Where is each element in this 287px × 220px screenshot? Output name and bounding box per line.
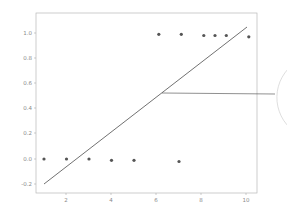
data-point	[42, 157, 45, 160]
y-tick-label: 0.8	[23, 55, 32, 61]
data-point	[213, 34, 216, 37]
data-points	[42, 33, 250, 163]
x-tick-label: 4	[109, 197, 113, 203]
data-point	[65, 157, 68, 160]
y-tick-label: 0.2	[23, 130, 32, 136]
plot-frame	[36, 13, 257, 193]
chart-canvas: 1.0 0.8 0.6 0.4 0.2 0.0 -0.2 2 4 6 8 10	[0, 0, 287, 220]
y-axis: 1.0 0.8 0.6 0.4 0.2 0.0 -0.2	[21, 30, 36, 187]
fit-line	[44, 27, 247, 184]
x-tick-label: 10	[243, 197, 250, 203]
data-point	[110, 159, 113, 162]
data-point	[225, 34, 228, 37]
x-axis: 2 4 6 8 10	[64, 193, 250, 203]
data-point	[177, 160, 180, 163]
y-tick-label: -0.2	[21, 181, 32, 187]
data-point	[87, 157, 90, 160]
y-tick-label: 0.4	[23, 105, 32, 111]
y-tick-label: 0.0	[23, 156, 32, 162]
x-tick-label: 8	[199, 197, 203, 203]
data-point	[180, 33, 183, 36]
data-point	[202, 34, 205, 37]
y-tick-label: 1.0	[23, 30, 32, 36]
y-tick-label: 0.6	[23, 80, 32, 86]
data-point	[247, 35, 250, 38]
callout-line	[162, 93, 275, 94]
x-tick-label: 6	[154, 197, 158, 203]
x-tick-label: 2	[64, 197, 68, 203]
callout-circle	[277, 60, 287, 128]
data-point	[157, 33, 160, 36]
data-point	[132, 159, 135, 162]
